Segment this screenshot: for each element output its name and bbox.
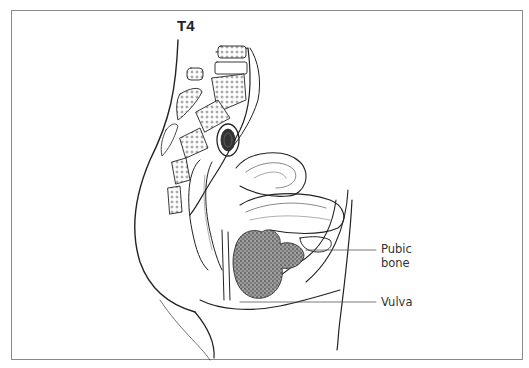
label-pubic-line1: Pubic (381, 242, 412, 256)
pelvis-sagittal-illustration (0, 0, 529, 368)
vertebra (218, 46, 246, 58)
vertebra (172, 158, 190, 184)
label-pubic-bone: Pubic bone (381, 242, 412, 270)
vaginal-canal (222, 230, 224, 300)
vertebra (187, 68, 203, 80)
vertebra (215, 62, 247, 74)
vertebra (168, 186, 182, 214)
vertebra (180, 128, 208, 158)
bladder (240, 194, 344, 234)
label-vulva: Vulva (381, 295, 412, 309)
tumor (233, 230, 304, 298)
label-vulva-line1: Vulva (381, 295, 412, 309)
label-pubic-line2: bone (381, 256, 412, 270)
